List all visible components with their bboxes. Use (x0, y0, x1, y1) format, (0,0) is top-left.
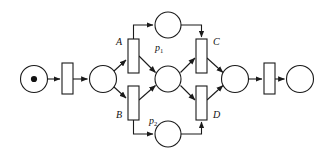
arc-place-p1-to-transition-c (181, 25, 202, 37)
arc-place-p2-to-transition-d (181, 122, 202, 134)
place-p1[interactable] (155, 12, 181, 38)
transition-a[interactable] (128, 39, 139, 73)
place-fork[interactable] (90, 66, 117, 93)
arc-middle-place-to-transition-d (181, 86, 196, 101)
petri-net-canvas: A B C D p1 p2 (0, 0, 327, 158)
transition-d[interactable] (196, 86, 207, 120)
arc-transition-c-to-join-place (207, 58, 223, 73)
transition-a-label: A (115, 36, 123, 47)
arc-transition-a-to-middle-place (139, 56, 156, 73)
transition-end[interactable] (264, 63, 275, 94)
place-join[interactable] (222, 66, 249, 93)
arc-transition-d-to-join-place (207, 86, 223, 101)
place-p2-label-subscript: 2 (154, 120, 157, 127)
arc-fork-place-to-transition-b (114, 87, 127, 99)
place-end[interactable] (287, 66, 314, 93)
arc-middle-place-to-transition-c (181, 58, 196, 73)
transition-c[interactable] (196, 39, 207, 73)
place-p1-label: p1 (154, 42, 163, 54)
arc-fork-place-to-transition-a (114, 60, 127, 72)
transition-b[interactable] (128, 86, 139, 120)
transition-d-label: D (212, 109, 221, 120)
arc-transition-b-to-middle-place (139, 86, 156, 101)
place-p2-label: p2 (148, 115, 157, 127)
place-p2[interactable] (155, 121, 181, 147)
arc-transition-a-to-place-p1 (134, 25, 154, 39)
transition-start[interactable] (62, 63, 73, 94)
place-p1-label-subscript: 1 (160, 47, 163, 54)
transition-b-label: B (116, 109, 122, 120)
token-marking-dot (31, 76, 37, 82)
place-middle[interactable] (155, 66, 181, 92)
transition-c-label: C (213, 36, 220, 47)
petri-net-diagram: A B C D p1 p2 (0, 0, 327, 158)
